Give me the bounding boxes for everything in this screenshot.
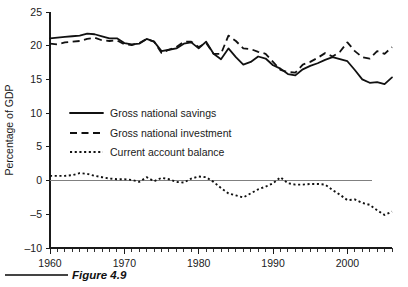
y-axis-ticks: 2520151050–5–10: [24, 6, 50, 254]
series-current-account-balance: [50, 173, 392, 215]
x-tick-label: 1960: [38, 257, 62, 269]
figure-caption-group: Figure 4.9: [5, 269, 127, 281]
chart-legend: Gross national savings Gross national in…: [70, 107, 231, 158]
y-tick-label: 20: [30, 39, 42, 51]
legend-label-gross-national-savings: Gross national savings: [110, 107, 216, 119]
x-axis-ticks: 19601970198019902000: [38, 248, 392, 269]
y-tick-label: 10: [30, 107, 42, 119]
y-axis-label-group: Percentage of GDP: [3, 84, 15, 175]
y-tick-label: –5: [30, 208, 42, 220]
y-tick-label: 5: [36, 140, 42, 152]
legend-label-gross-national-investment: Gross national investment: [110, 127, 231, 139]
y-tick-label: 0: [36, 174, 42, 186]
x-tick-label: 1990: [261, 257, 285, 269]
figure-container: Percentage of GDP 2520151050–5–10 196019…: [0, 0, 408, 287]
series-group: [50, 34, 392, 215]
x-tick-label: 2000: [336, 257, 360, 269]
y-axis-label: Percentage of GDP: [3, 84, 15, 175]
x-tick-label: 1970: [113, 257, 137, 269]
y-tick-label: –10: [24, 242, 42, 254]
y-tick-label: 15: [30, 73, 42, 85]
figure-caption: Figure 4.9: [72, 269, 127, 281]
series-gross-national-investment: [50, 36, 392, 73]
line-chart: Percentage of GDP 2520151050–5–10 196019…: [0, 0, 408, 287]
series-gross-national-savings: [50, 34, 392, 85]
y-tick-label: 25: [30, 6, 42, 18]
legend-label-current-account-balance: Current account balance: [110, 146, 225, 158]
x-tick-label: 1980: [187, 257, 211, 269]
